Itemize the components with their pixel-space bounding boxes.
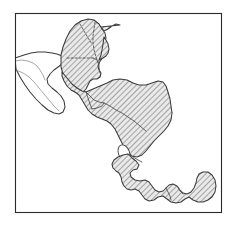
map-figure: Central America distribution map	[0, 0, 237, 228]
central-america-map	[0, 0, 237, 228]
